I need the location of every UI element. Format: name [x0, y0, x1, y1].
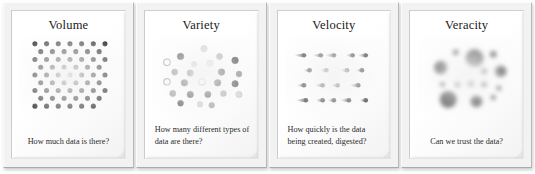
panel-volume-caption: How much data is there? — [19, 136, 118, 147]
panel-velocity[interactable]: Velocity How quickly is the da — [269, 2, 400, 168]
panel-veracity-caption: Can we trust the data? — [417, 136, 516, 147]
panel-variety-caption: How many different types of data are the… — [152, 124, 251, 147]
panel-velocity-title: Velocity — [312, 19, 355, 32]
panel-variety-title: Variety — [182, 19, 220, 32]
figure-canvas: Volume How much data is there? Variety — [0, 0, 535, 174]
panel-variety[interactable]: Variety How many different types of data… — [136, 2, 267, 168]
volume-dot-grid-svg — [25, 39, 111, 111]
veracity-blur-cluster-svg — [424, 39, 510, 111]
variety-dot-scatter-visual — [158, 39, 244, 111]
velocity-motion-streak-visual — [291, 39, 377, 111]
panel-veracity[interactable]: Veracity Can we trust the data? — [401, 2, 532, 168]
panel-velocity-inner: Velocity How quickly is the da — [277, 10, 392, 159]
panel-volume-inner: Volume How much data is there? — [11, 10, 126, 159]
panel-velocity-caption: How quickly is the data being created, d… — [285, 124, 384, 147]
panel-veracity-inner: Veracity Can we trust the data? — [409, 10, 524, 159]
panel-variety-inner: Variety How many different types of data… — [144, 10, 259, 159]
veracity-blur-cluster-visual — [424, 39, 510, 111]
panel-volume-title: Volume — [48, 19, 88, 32]
panel-row: Volume How much data is there? Variety — [3, 2, 532, 168]
variety-dot-scatter-svg — [158, 39, 244, 111]
volume-dot-grid-visual — [25, 39, 111, 111]
panel-volume[interactable]: Volume How much data is there? — [3, 2, 134, 168]
panel-veracity-title: Veracity — [445, 19, 488, 32]
velocity-motion-streak-svg — [291, 39, 377, 111]
